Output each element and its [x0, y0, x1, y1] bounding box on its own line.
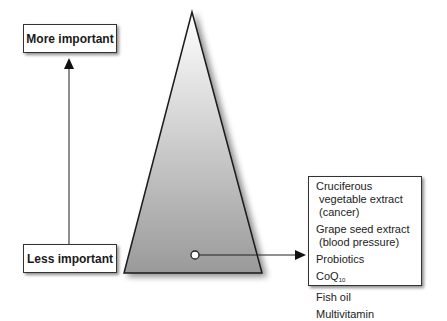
more-important-text: More important	[26, 32, 113, 46]
list-item-text: (cancer)	[316, 206, 421, 219]
list-item-text: vegetable extract	[316, 193, 421, 206]
pointer-origin-circle	[191, 251, 199, 259]
importance-pyramid	[124, 12, 262, 273]
arrow-right-icon	[295, 250, 306, 260]
list-item: Multivitamin	[316, 308, 421, 321]
list-item: Probiotics	[316, 253, 421, 266]
subscript: 10	[339, 277, 346, 283]
supplement-list-box: Cruciferous vegetable extract (cancer) G…	[308, 176, 422, 286]
list-item: CoQ10	[316, 270, 421, 287]
less-important-label: Less important	[23, 244, 117, 273]
list-item: Cruciferous vegetable extract (cancer)	[316, 180, 421, 219]
list-item-text: Fish oil	[316, 291, 351, 303]
list-item-text: Grape seed extract	[316, 223, 410, 235]
list-item-text: Probiotics	[316, 253, 364, 265]
list-item-text: CoQ	[316, 270, 339, 282]
list-item-text: Cruciferous	[316, 180, 372, 192]
list-item: Fish oil	[316, 291, 421, 304]
less-important-text: Less important	[27, 252, 113, 266]
list-item-text: (blood pressure)	[316, 236, 421, 249]
list-item-text: Multivitamin	[316, 308, 374, 320]
list-item: Grape seed extract (blood pressure)	[316, 223, 421, 249]
arrow-up-icon	[64, 58, 74, 69]
more-important-label: More important	[23, 24, 117, 53]
